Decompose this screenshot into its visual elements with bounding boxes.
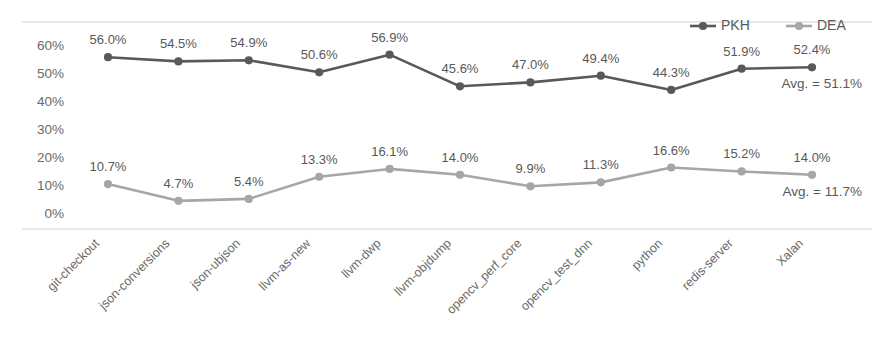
- series-lines: [108, 55, 812, 201]
- y-axis-tick-label: 40%: [37, 94, 64, 109]
- data-point-label: 4.7%: [164, 176, 194, 191]
- line-chart: 60%50%40%30%20%10%0% 56.0%54.5%54.9%50.6…: [0, 0, 888, 341]
- data-point-label: 50.6%: [301, 47, 338, 62]
- x-axis-category-labels: git-checkoutjson-conversionsjson-ubjsonl…: [45, 236, 807, 317]
- data-point: [104, 180, 112, 188]
- data-point: [104, 53, 112, 61]
- y-axis-tick-labels: 60%50%40%30%20%10%0%: [37, 38, 64, 221]
- legend-marker-dea: [795, 22, 803, 30]
- x-axis-category-label: json-ubjson: [187, 236, 243, 292]
- x-axis-category-label: opencv_test_dnn: [518, 236, 595, 313]
- data-point-label: 14.0%: [794, 150, 831, 165]
- data-point: [456, 171, 464, 179]
- data-point: [174, 197, 182, 205]
- average-annotation-dea: Avg. = 11.7%: [783, 184, 862, 199]
- legend-label-pkh[interactable]: PKH: [721, 17, 750, 33]
- data-point: [386, 51, 394, 59]
- data-point-label: 9.9%: [516, 161, 546, 176]
- data-point-label: 49.4%: [582, 51, 619, 66]
- data-point-label: 15.2%: [723, 146, 760, 161]
- data-point-label: 52.4%: [794, 42, 831, 57]
- data-point: [174, 57, 182, 65]
- y-axis-tick-label: 30%: [37, 122, 64, 137]
- data-point-label: 56.9%: [371, 30, 408, 45]
- data-point: [315, 173, 323, 181]
- chart-canvas: 60%50%40%30%20%10%0% 56.0%54.5%54.9%50.6…: [0, 0, 888, 341]
- y-axis-tick-label: 50%: [37, 66, 64, 81]
- data-point: [738, 167, 746, 175]
- data-point: [526, 182, 534, 190]
- x-axis-category-label: opencv_perf_core: [444, 236, 525, 317]
- data-point: [738, 65, 746, 73]
- y-axis-tick-label: 60%: [37, 38, 64, 53]
- data-point: [597, 72, 605, 80]
- data-point: [526, 78, 534, 86]
- x-axis-category-label: python: [629, 236, 665, 272]
- data-point: [245, 195, 253, 203]
- data-point-label: 54.5%: [160, 36, 197, 51]
- data-point-label: 56.0%: [90, 32, 127, 47]
- data-point-label: 10.7%: [90, 159, 127, 174]
- x-axis-category-label: json-conversions: [96, 236, 173, 313]
- x-axis-category-label: llvm-as-new: [256, 236, 314, 294]
- legend-marker-pkh: [699, 22, 707, 30]
- x-axis-category-label: redis-server: [679, 236, 736, 293]
- data-point-label: 54.9%: [230, 35, 267, 50]
- data-point-label: 44.3%: [653, 65, 690, 80]
- data-point: [315, 68, 323, 76]
- average-annotations: Avg. = 51.1%Avg. = 11.7%: [782, 76, 862, 199]
- data-point-labels: 56.0%54.5%54.9%50.6%56.9%45.6%47.0%49.4%…: [90, 30, 831, 191]
- y-axis-tick-label: 10%: [37, 178, 64, 193]
- data-point-label: 47.0%: [512, 57, 549, 72]
- legend-label-dea[interactable]: DEA: [817, 17, 846, 33]
- y-axis-tick-label: 0%: [44, 206, 64, 221]
- data-point-label: 16.6%: [653, 143, 690, 158]
- data-point-label: 45.6%: [442, 61, 479, 76]
- average-annotation-pkh: Avg. = 51.1%: [782, 76, 862, 91]
- x-axis-category-label: llvm-dwp: [339, 236, 384, 281]
- data-point-label: 5.4%: [234, 174, 264, 189]
- data-point-label: 51.9%: [723, 44, 760, 59]
- data-point: [245, 56, 253, 64]
- data-point-label: 13.3%: [301, 152, 338, 167]
- y-axis-tick-label: 20%: [37, 150, 64, 165]
- x-axis-category-label: git-checkout: [45, 236, 103, 294]
- x-axis-category-label: Xalan: [774, 236, 807, 269]
- data-point: [386, 165, 394, 173]
- data-point: [597, 178, 605, 186]
- data-point: [667, 163, 675, 171]
- data-point: [667, 86, 675, 94]
- chart-legend: PKHDEA: [690, 17, 846, 33]
- data-point-label: 16.1%: [371, 144, 408, 159]
- data-point: [456, 82, 464, 90]
- data-point-label: 11.3%: [583, 157, 619, 172]
- x-axis-category-label: llvm-objdump: [392, 236, 454, 298]
- data-point: [808, 171, 816, 179]
- data-point-label: 14.0%: [442, 150, 479, 165]
- data-point: [808, 63, 816, 71]
